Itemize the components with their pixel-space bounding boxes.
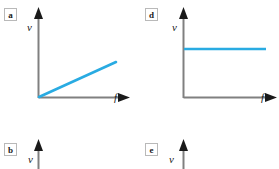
panel-e: e v xyxy=(139,115,279,169)
y-axis-label-a: v xyxy=(27,22,32,33)
x-axis-arrowhead-a xyxy=(118,93,130,102)
x-axis-arrowhead-d xyxy=(265,93,277,102)
panel-a: a v f xyxy=(0,0,139,115)
curve-a-linear xyxy=(39,62,116,97)
x-axis-label-a: f xyxy=(114,92,117,103)
panel-b: b v xyxy=(0,115,139,169)
y-axis-arrowhead-b xyxy=(34,139,43,151)
y-axis-label-e: v xyxy=(169,154,174,165)
y-axis-label-d: v xyxy=(172,22,177,33)
panel-a-axes xyxy=(0,0,139,115)
panel-e-axes xyxy=(139,115,279,169)
y-axis-arrowhead-a xyxy=(34,7,43,19)
y-axis-label-b: v xyxy=(28,154,33,165)
y-axis-arrowhead-e xyxy=(179,139,188,151)
physics-graph-figure: a v f d v xyxy=(0,0,279,169)
y-axis-arrowhead-d xyxy=(179,7,188,19)
x-axis-label-d: f xyxy=(261,92,264,103)
panel-d-axes xyxy=(139,0,279,115)
panel-b-axes xyxy=(0,115,139,169)
panel-d: d v f xyxy=(139,0,279,115)
